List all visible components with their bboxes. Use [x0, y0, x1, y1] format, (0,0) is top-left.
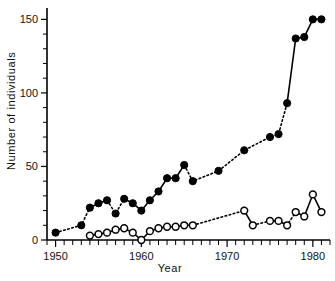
data-point: [172, 223, 179, 230]
y-axis-ticks: [41, 19, 47, 240]
data-point: [267, 217, 274, 224]
data-point: [249, 222, 256, 229]
line-chart-figure: 050100150 1950196019701980 Number of ind…: [0, 0, 335, 281]
x-axis-ticks: [47, 240, 330, 247]
data-point: [318, 209, 325, 216]
y-tick-label: 150: [20, 13, 38, 25]
x-tick-label: 1980: [301, 250, 325, 262]
data-point: [129, 229, 136, 236]
data-point: [181, 222, 188, 229]
x-tick-label: 1970: [215, 250, 239, 262]
y-axis-title: Number of individuals: [5, 52, 17, 170]
data-point: [241, 147, 248, 154]
data-point: [146, 197, 153, 204]
y-tick-label: 100: [20, 87, 38, 99]
data-point: [189, 222, 196, 229]
data-point: [147, 228, 154, 235]
x-tick-label: 1950: [43, 250, 67, 262]
x-axis-tick-labels: 1950196019701980: [43, 250, 325, 262]
data-point: [172, 175, 179, 182]
data-point: [121, 225, 128, 232]
data-point: [284, 100, 291, 107]
series-line-segment: [56, 208, 90, 233]
data-point: [189, 178, 196, 185]
data-point: [155, 188, 162, 195]
y-axis-group: 050100150: [20, 8, 47, 246]
data-point: [86, 232, 93, 239]
data-point: [164, 223, 171, 230]
x-tick-label: 1960: [129, 250, 153, 262]
data-point: [138, 237, 145, 244]
data-point: [301, 213, 308, 220]
series-line-segment: [184, 103, 287, 181]
data-point: [275, 130, 282, 137]
data-point: [309, 191, 316, 198]
data-point: [78, 222, 85, 229]
data-point: [86, 204, 93, 211]
data-point: [266, 133, 273, 140]
data-point: [95, 200, 102, 207]
y-axis-tick-labels: 050100150: [20, 13, 38, 246]
series-line-segment: [193, 211, 244, 226]
y-tick-label: 0: [32, 234, 38, 246]
chart-canvas: 050100150 1950196019701980 Number of ind…: [0, 0, 335, 281]
data-point: [309, 16, 316, 23]
data-point: [112, 226, 119, 233]
y-tick-label: 50: [26, 160, 38, 172]
data-point: [181, 161, 188, 168]
data-point: [275, 217, 282, 224]
data-point: [52, 229, 59, 236]
x-axis-group: 1950196019701980: [43, 240, 330, 262]
series-line-segment: [287, 19, 321, 103]
data-point: [138, 207, 145, 214]
data-point: [292, 209, 299, 216]
x-axis-title: Year: [158, 262, 183, 274]
data-point: [241, 207, 248, 214]
series-filled-circles: [52, 16, 325, 236]
data-point: [155, 225, 162, 232]
data-point: [318, 16, 325, 23]
data-point: [104, 229, 111, 236]
data-point: [284, 222, 291, 229]
data-point: [112, 210, 119, 217]
data-point: [103, 197, 110, 204]
data-point: [301, 33, 308, 40]
data-point: [292, 35, 299, 42]
data-point: [129, 200, 136, 207]
plot-area: [52, 16, 325, 244]
data-point: [95, 231, 102, 238]
data-point: [163, 175, 170, 182]
data-point: [215, 167, 222, 174]
data-point: [121, 195, 128, 202]
